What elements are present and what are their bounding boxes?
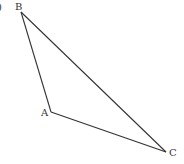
part-label: ) <box>0 1 2 12</box>
triangle-diagram: ) B A C <box>0 0 184 164</box>
vertex-label-a: A <box>40 107 49 118</box>
edge-ac <box>51 112 166 152</box>
edge-bc <box>21 12 166 152</box>
vertex-label-c: C <box>169 147 177 158</box>
vertex-label-b: B <box>15 1 22 12</box>
